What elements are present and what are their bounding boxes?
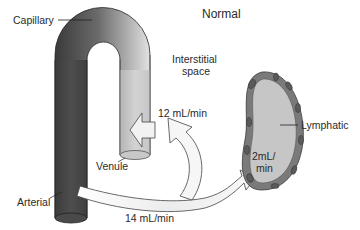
reabsorption-rate-label: 12 mL/min: [158, 107, 207, 119]
interstitial-label-line2: space: [182, 65, 210, 77]
venous-limb: [120, 70, 150, 155]
arterial-opening: [55, 213, 87, 223]
filtration-arrow: [77, 170, 256, 212]
branch-arrow: [168, 118, 202, 200]
diagram-title: Normal: [202, 7, 241, 21]
interstitial-label-line1: Interstitial: [172, 53, 217, 65]
capillary-vessel: [55, 7, 150, 223]
lymph-flow-label-line1: 2mL/: [252, 150, 275, 162]
fluid-exchange-diagram: Normal Capillary Interstitial space 12 m…: [0, 0, 360, 230]
filtration-rate-label: 14 mL/min: [125, 212, 174, 224]
arterial-label: Arterial: [17, 196, 50, 208]
capillary-label: Capillary: [13, 14, 55, 26]
lymph-flow-label-line2: min: [256, 162, 273, 174]
lymphatic-label: Lymphatic: [301, 119, 348, 131]
venule-label: Venule: [96, 160, 128, 172]
